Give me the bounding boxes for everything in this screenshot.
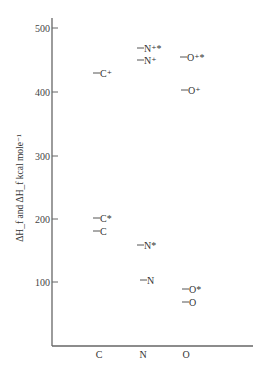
level-n: N <box>147 275 154 286</box>
level-o-star: O* <box>189 284 201 295</box>
ytick-label-100: 100 <box>35 277 50 288</box>
y-axis-label: ΔH_f and ΔH_f kcal mole⁻¹ <box>15 134 25 242</box>
category-label-n: N <box>139 349 146 360</box>
energy-levels: C⁺ C* C N⁺* N⁺ N* N O⁺* O⁺ O* O <box>93 43 205 308</box>
ytick-label-400: 400 <box>35 87 50 98</box>
level-o-plus: O⁺ <box>188 85 201 96</box>
ytick-label-200: 200 <box>35 214 50 225</box>
energy-level-chart: 500 400 300 200 100 ΔH_f and ΔH_f kcal m… <box>0 0 261 377</box>
category-label-c: C <box>96 349 103 360</box>
level-o: O <box>189 297 196 308</box>
level-n-plus: N⁺ <box>144 55 157 66</box>
x-category-labels: C N O <box>96 349 190 360</box>
level-c-plus: C⁺ <box>100 68 112 79</box>
level-c-star: C* <box>100 213 112 224</box>
level-n-star: N* <box>144 240 156 251</box>
ytick-label-300: 300 <box>35 151 50 162</box>
level-o-plus-star: O⁺* <box>187 52 205 63</box>
level-n-plus-star: N⁺* <box>144 43 162 54</box>
y-ticks: 500 400 300 200 100 <box>35 23 58 288</box>
category-label-o: O <box>182 349 189 360</box>
ytick-label-500: 500 <box>35 23 50 34</box>
level-c: C <box>100 226 107 237</box>
